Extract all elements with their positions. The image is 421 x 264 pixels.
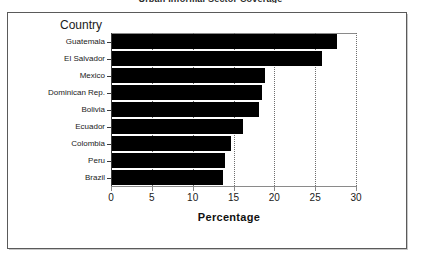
category-tick [107,127,112,128]
category-tick [107,59,112,60]
bar-row[interactable] [112,85,262,100]
bar-chart: Country GuatemalaEl SalvadorMexicoDomini… [8,13,408,250]
value-label: 25 [300,192,330,203]
value-tick [356,187,357,191]
category-label: Ecuador [8,122,105,131]
bar[interactable] [112,68,265,83]
category-label: Colombia [8,139,105,148]
value-label: 0 [96,192,126,203]
bar-row[interactable] [112,102,259,117]
category-tick [107,178,112,179]
bar-row[interactable] [112,68,265,83]
category-tick [107,93,112,94]
category-tick [107,76,112,77]
bar[interactable] [112,119,243,134]
category-tick [107,42,112,43]
bar[interactable] [112,102,259,117]
bar-row[interactable] [112,153,225,168]
category-label: Brazil [8,173,105,182]
category-label: Bolivia [8,105,105,114]
value-label: 5 [137,192,167,203]
category-label: Guatemala [8,37,105,46]
bar-row[interactable] [112,119,243,134]
gridline-30 [356,33,357,186]
value-label: 20 [259,192,289,203]
bar[interactable] [112,85,262,100]
x-axis-title-text: Percentage [198,211,260,223]
category-label: Mexico [8,71,105,80]
y-axis-title: Country [60,18,102,32]
value-tick [152,187,153,191]
bar[interactable] [112,170,223,185]
category-tick [107,110,112,111]
chart-frame: Country GuatemalaEl SalvadorMexicoDomini… [7,12,407,249]
value-tick [111,187,112,191]
bar[interactable] [112,51,322,66]
bar[interactable] [112,34,337,49]
bar-row[interactable] [112,170,223,185]
value-label: 30 [341,192,371,203]
bar-row[interactable] [112,34,337,49]
bar-row[interactable] [112,51,322,66]
x-axis-title: Percentage [8,211,408,223]
category-label: El Salvador [8,54,105,63]
value-tick [315,187,316,191]
value-tick [274,187,275,191]
bar[interactable] [112,136,231,151]
category-tick [107,161,112,162]
value-tick [193,187,194,191]
value-tick [234,187,235,191]
bar-row[interactable] [112,136,231,151]
category-label: Dominican Rep. [8,88,105,97]
bar[interactable] [112,153,225,168]
value-label: 15 [219,192,249,203]
category-tick [107,144,112,145]
document-title: Urban Informal Sector Coverage [0,0,421,3]
category-label: Peru [8,156,105,165]
value-label: 10 [178,192,208,203]
